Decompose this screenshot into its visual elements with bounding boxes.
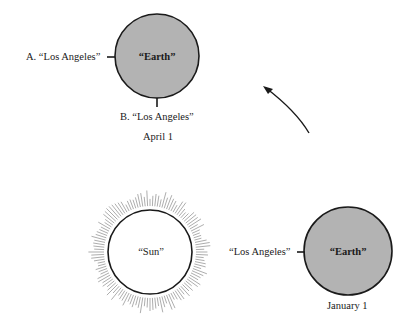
date-april: April 1 <box>143 132 173 143</box>
diagram-canvas <box>0 0 406 315</box>
los-angeles-january-label: “Los Angeles” <box>229 247 291 258</box>
date-january: January 1 <box>327 301 368 312</box>
curved-arrow-icon <box>263 86 309 133</box>
marker-a-label: A. “Los Angeles” <box>26 52 100 63</box>
marker-b-label: B. “Los Angeles” <box>120 112 194 123</box>
earth-january-label: “Earth” <box>330 247 367 258</box>
sun-label: “Sun” <box>138 247 164 258</box>
earth-april-label: “Earth” <box>139 52 176 63</box>
